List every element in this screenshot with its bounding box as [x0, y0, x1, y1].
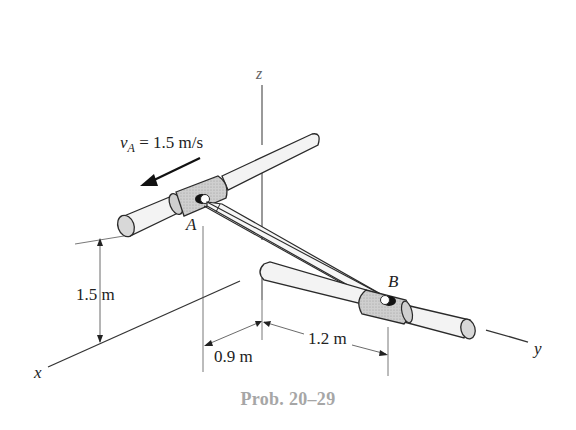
mechanism-diagram	[0, 0, 576, 430]
velocity-arrow	[140, 158, 200, 186]
dimension-x-offset	[204, 321, 262, 346]
velocity-value: = 1.5 m/s	[135, 133, 203, 152]
collar-b	[359, 290, 415, 324]
velocity-subscript: A	[128, 141, 135, 155]
height-dimension-label: 1.5 m	[76, 286, 115, 303]
x-offset-dimension-label: 0.9 m	[214, 348, 253, 365]
figure-caption: Prob. 20–29	[0, 389, 576, 410]
velocity-symbol: v	[120, 133, 128, 152]
point-b-label: B	[388, 273, 398, 290]
problem-figure: z x y A B vA = 1.5 m/s 1.5 m 0.9 m 1.2 m…	[0, 0, 576, 430]
point-a-label: A	[186, 216, 196, 233]
y-offset-dimension-label: 1.2 m	[308, 330, 347, 347]
z-axis-label: z	[256, 66, 262, 82]
x-axis-label: x	[34, 364, 42, 381]
y-axis-label: y	[534, 340, 542, 357]
velocity-label: vA = 1.5 m/s	[120, 134, 203, 151]
y-axis	[486, 330, 528, 342]
